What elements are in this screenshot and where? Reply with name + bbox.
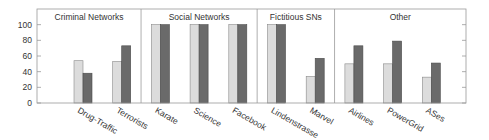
bar-dark-science <box>199 25 208 103</box>
y-tick-label: 80 <box>23 35 33 45</box>
y-tick-label: 20 <box>23 82 33 92</box>
x-axis-labels: Drug-TrafficTerroristsKarateScienceFaceb… <box>76 105 447 140</box>
bar-dark-marvel <box>315 58 324 103</box>
bar-light-airlines <box>345 64 354 103</box>
bar-dark-powergrid <box>393 41 402 103</box>
bar-light-marvel <box>306 76 315 103</box>
bar-light-karate <box>151 25 160 103</box>
bar-light-drug-traffic <box>74 61 83 103</box>
bar-dark-airlines <box>354 46 363 103</box>
group-label: Other <box>390 12 411 22</box>
group-label: Fictitious SNs <box>270 12 322 22</box>
bar-light-science <box>190 25 199 103</box>
bar-dark-terrorists <box>122 46 131 103</box>
category-label: Terrorists <box>115 105 150 131</box>
category-label: Drug-Traffic <box>76 105 120 136</box>
y-tick-label: 60 <box>23 51 33 61</box>
bar-dark-drug-traffic <box>83 73 92 103</box>
bar-light-powergrid <box>384 64 393 103</box>
category-label: Facebook <box>231 105 269 133</box>
bar-light-ases <box>422 77 431 103</box>
bar-dark-karate <box>160 25 169 103</box>
category-label: Karate <box>153 105 180 126</box>
group-label: Criminal Networks <box>55 12 124 22</box>
bar-light-facebook <box>229 25 238 103</box>
category-label: PowerGrid <box>386 105 426 134</box>
bar-dark-lindenstrasse <box>277 25 286 103</box>
group-label: Social Networks <box>169 12 230 22</box>
category-label: Science <box>192 105 223 129</box>
bar-dark-facebook <box>238 25 247 103</box>
bar-dark-ases <box>431 63 440 103</box>
y-tick-label: 100 <box>18 20 32 30</box>
y-tick-label: 0 <box>27 98 32 108</box>
category-label: Marvel <box>308 105 335 126</box>
grouped-bar-chart: 020406080100 Criminal NetworksSocial Net… <box>0 0 489 140</box>
bar-light-terrorists <box>113 61 122 103</box>
group-labels: Criminal NetworksSocial NetworksFictitio… <box>55 12 412 22</box>
bar-light-lindenstrasse <box>268 25 277 103</box>
category-label: Airlines <box>347 105 376 128</box>
category-label: ASes <box>424 105 447 124</box>
y-tick-label: 40 <box>23 67 33 77</box>
